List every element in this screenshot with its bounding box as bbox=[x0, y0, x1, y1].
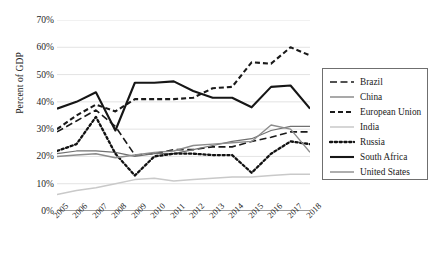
legend-item[interactable]: China bbox=[329, 89, 423, 104]
plot-area bbox=[57, 20, 310, 211]
legend-label: European Union bbox=[360, 107, 421, 117]
legend-label: South Africa bbox=[360, 152, 407, 162]
y-axis-tick-label: 50% bbox=[20, 70, 54, 80]
legend-swatch-icon bbox=[329, 77, 355, 87]
plot-svg bbox=[57, 20, 310, 211]
legend-swatch-icon bbox=[329, 167, 355, 177]
legend-swatch-icon bbox=[329, 137, 355, 147]
legend-item[interactable]: India bbox=[329, 119, 423, 134]
legend-item[interactable]: European Union bbox=[329, 104, 423, 119]
legend-swatch-icon bbox=[329, 152, 355, 162]
y-axis-tick-label: 20% bbox=[20, 151, 54, 161]
legend-item[interactable]: Brazil bbox=[329, 74, 423, 89]
legend-item[interactable]: Russia bbox=[329, 134, 423, 149]
legend-label: India bbox=[360, 122, 379, 132]
legend-item[interactable]: United States bbox=[329, 164, 423, 179]
y-axis-tick-label: 60% bbox=[20, 42, 54, 52]
legend-item[interactable]: South Africa bbox=[329, 149, 423, 164]
y-axis-tick-label: 30% bbox=[20, 124, 54, 134]
y-axis-tick-label: 40% bbox=[20, 97, 54, 107]
legend: BrazilChinaEuropean UnionIndiaRussiaSout… bbox=[322, 68, 428, 180]
y-axis-tick-label: 0% bbox=[20, 206, 54, 216]
x-axis-tick-labels: 2005200620072008200920102011201220132014… bbox=[57, 213, 310, 253]
y-axis-tick-label: 70% bbox=[20, 15, 54, 25]
legend-swatch-icon bbox=[329, 107, 355, 117]
legend-label: Russia bbox=[360, 137, 385, 147]
legend-label: China bbox=[360, 92, 382, 102]
legend-label: Brazil bbox=[360, 77, 383, 87]
y-axis-tick-labels: 0%10%20%30%40%50%60%70% bbox=[16, 20, 54, 211]
line-chart: Percent of GDP 0%10%20%30%40%50%60%70% 2… bbox=[0, 0, 436, 254]
legend-label: United States bbox=[360, 167, 410, 177]
legend-swatch-icon bbox=[329, 92, 355, 102]
legend-swatch-icon bbox=[329, 122, 355, 132]
series-line-india bbox=[57, 174, 310, 194]
y-axis-tick-label: 10% bbox=[20, 179, 54, 189]
